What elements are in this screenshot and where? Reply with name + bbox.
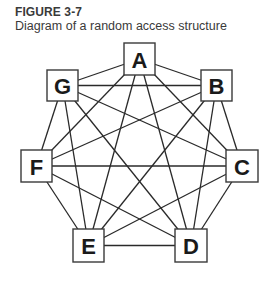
edge-a-e xyxy=(89,59,140,246)
node-c: C xyxy=(226,150,258,182)
edge-a-d xyxy=(140,59,192,246)
node-b: B xyxy=(201,70,232,101)
node-label: D xyxy=(183,234,199,259)
node-d: D xyxy=(175,229,207,262)
node-label: C xyxy=(234,155,250,180)
node-label: B xyxy=(209,74,225,99)
node-g: G xyxy=(47,70,78,101)
node-a: A xyxy=(124,43,155,75)
nodes-layer: ABCDEFG xyxy=(21,43,258,262)
node-label: E xyxy=(81,234,96,259)
node-label: A xyxy=(132,48,148,73)
random-access-diagram: ABCDEFG xyxy=(0,0,275,285)
edge-c-e xyxy=(89,166,243,246)
node-label: G xyxy=(54,74,71,99)
node-e: E xyxy=(73,229,104,262)
edge-d-f xyxy=(37,166,192,246)
node-label: F xyxy=(30,155,43,180)
node-f: F xyxy=(21,150,52,182)
